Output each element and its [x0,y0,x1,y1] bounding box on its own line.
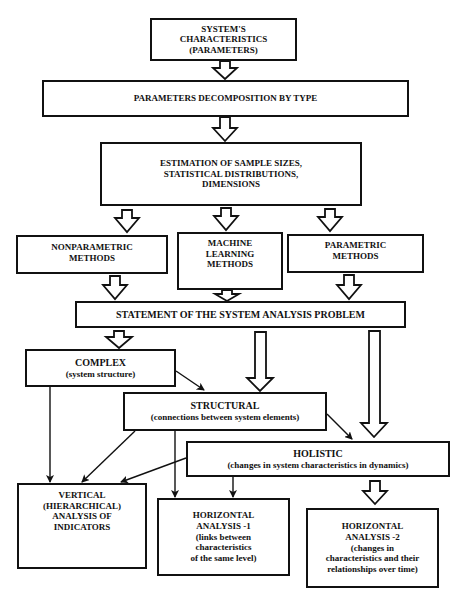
node-text: LEARNING [206,249,255,260]
connector-structural-vertical [82,431,135,482]
node-text: COMPLEX [75,357,126,369]
node-text: (HIERARCHICAL) [43,501,121,512]
node-vertical-analysis: VERTICAL (HIERARCHICAL) ANALYSIS OF INDI… [17,483,147,569]
connector-structural-holistic [327,414,352,439]
node-text: ESTIMATION OF SAMPLE SIZES, [160,158,302,169]
node-structural: STRUCTURAL (connections between system e… [123,392,327,431]
node-system-characteristics: SYSTEM'S CHARACTERISTICS (PARAMETERS) [150,18,297,61]
hollow-arrow-icon [215,290,239,301]
node-nonparametric-methods: NONPARAMETRIC METHODS [16,235,168,274]
connector-complex-structural [176,371,204,390]
node-holistic: HOLISTIC (changes in system characterist… [186,441,450,477]
node-text: INDICATORS [54,522,111,533]
node-machine-learning-methods: MACHINE LEARNING METHODS [177,232,283,290]
hollow-arrow-icon [337,275,361,299]
node-complex: COMPLEX (system structure) [25,349,176,387]
node-problem-statement: STATEMENT OF THE SYSTEM ANALYSIS PROBLEM [75,301,406,328]
node-text: VERTICAL [58,490,105,501]
node-text: of the same level) [190,553,256,564]
hollow-arrow-icon [213,117,237,141]
node-text: HORIZONTAL [342,521,403,532]
node-text: METHODS [332,251,378,262]
node-parametric-methods: PARAMETRIC METHODS [287,234,424,273]
hollow-arrow-icon [318,209,342,231]
node-text: STATISTICAL DISTRIBUTIONS, [164,169,299,180]
node-text: STRUCTURAL [191,400,260,412]
node-text: PARAMETERS DECOMPOSITION BY TYPE [134,93,318,104]
node-text: STATEMENT OF THE SYSTEM ANALYSIS PROBLEM [116,309,365,321]
node-text: (connections between system elements) [151,412,300,423]
node-horizontal-analysis-2: HORIZONTAL ANALYSIS -2 (changes in chara… [306,508,439,588]
node-estimation: ESTIMATION OF SAMPLE SIZES, STATISTICAL … [100,142,362,206]
node-text: METHODS [207,259,253,270]
node-text: characteristics and their [326,553,419,564]
node-text: ANALYSIS -1 [196,521,250,532]
node-text: NONPARAMETRIC [51,242,132,253]
node-text: METHODS [69,253,115,264]
hollow-arrow-icon [213,61,237,79]
node-text: (changes in [351,543,394,554]
node-parameters-decomposition: PARAMETERS DECOMPOSITION BY TYPE [42,80,409,117]
node-text: (links between [196,532,251,543]
node-text: DIMENSIONS [202,179,260,190]
hollow-arrow-icon [247,332,273,391]
connector-holistic-vertical [121,458,186,482]
node-text: SYSTEM'S [201,24,246,35]
node-text: ANALYSIS -2 [345,532,399,543]
hollow-arrow-icon [115,210,139,232]
node-text: relationships over time) [327,564,418,575]
node-text: (PARAMETERS) [189,45,257,56]
node-text: (system structure) [66,369,136,380]
hollow-arrow-icon [214,208,238,230]
hollow-arrow-icon [363,481,387,504]
node-horizontal-analysis-1: HORIZONTAL ANALYSIS -1 (links between ch… [157,498,290,576]
node-text: CHARACTERISTICS [180,34,268,45]
node-text: characteristics [196,542,252,553]
node-text: ANALYSIS OF [52,511,111,522]
node-text: MACHINE [208,238,253,249]
hollow-arrow-icon [106,331,132,348]
hollow-arrow-icon [361,331,387,437]
node-text: (changes in system characteristics in dy… [227,460,408,471]
node-text: PARAMETRIC [325,240,386,251]
node-text: HORIZONTAL [193,510,254,521]
hollow-arrow-icon [103,276,127,299]
node-text: HOLISTIC [293,448,342,460]
